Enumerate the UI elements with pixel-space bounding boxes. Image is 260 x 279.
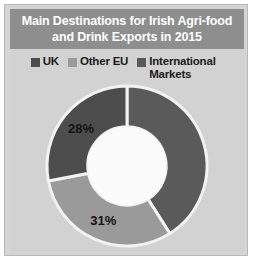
donut-chart-area: 31%28% (10, 49, 244, 253)
donut-center-hole (88, 127, 166, 205)
donut-chart: 31%28% (20, 83, 234, 249)
donut-slice-label-3: 28% (68, 121, 94, 136)
chart-title-band: Main Destinations for Irish Agri-food an… (10, 9, 244, 49)
donut-slice-label-2: 31% (90, 213, 116, 228)
chart-body: UK Other EU International Markets 31%28% (10, 49, 244, 253)
chart-title: Main Destinations for Irish Agri-food an… (18, 13, 237, 45)
figure-frame: Main Destinations for Irish Agri-food an… (4, 4, 248, 256)
